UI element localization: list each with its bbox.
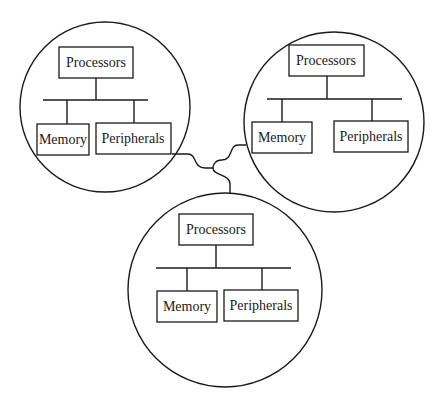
node-top-left: Processors Memory Peripherals <box>20 22 190 192</box>
network-links <box>172 145 246 193</box>
link-top-right-to-hub <box>213 145 246 168</box>
peripherals-label: Peripherals <box>230 298 293 313</box>
peripherals-label: Peripherals <box>102 131 165 146</box>
memory-label: Memory <box>258 130 306 145</box>
node-bottom: Processors Memory Peripherals <box>128 193 322 387</box>
memory-label: Memory <box>163 299 211 314</box>
memory-label: Memory <box>39 132 87 147</box>
processors-label: Processors <box>66 55 126 70</box>
diagram-canvas: Processors Memory Peripherals Processors… <box>0 0 440 395</box>
link-top-left-to-hub <box>172 154 213 168</box>
peripherals-label: Peripherals <box>340 129 403 144</box>
link-hub-to-bottom <box>213 168 230 193</box>
processors-label: Processors <box>186 222 246 237</box>
node-top-right: Processors Memory Peripherals <box>244 32 424 212</box>
processors-label: Processors <box>296 53 356 68</box>
